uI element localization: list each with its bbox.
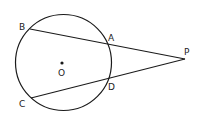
label-d: D bbox=[108, 82, 115, 92]
secant-circle-diagram: B A P O D C bbox=[0, 0, 200, 119]
label-c: C bbox=[19, 99, 25, 109]
secant-pc bbox=[31, 59, 185, 98]
label-p: P bbox=[184, 47, 190, 57]
center-dot-o bbox=[60, 61, 63, 64]
label-o: O bbox=[58, 68, 65, 78]
label-b: B bbox=[19, 22, 25, 32]
label-a: A bbox=[108, 33, 115, 43]
